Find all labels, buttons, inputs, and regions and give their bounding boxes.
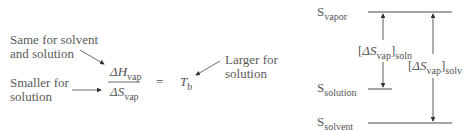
equation-denominator: ΔSvap — [110, 84, 139, 100]
label-s-vapor: Svapor — [317, 4, 347, 20]
equals-sign: = — [156, 74, 163, 90]
label-delta-s-soln: [ΔSvap]soln — [358, 43, 412, 59]
label-s-solution: Ssolution — [317, 80, 356, 96]
annotation-same: Same for solvent and solution — [10, 33, 98, 61]
annotation-smaller: Smaller for solution — [10, 76, 69, 104]
equation-numerator: ΔHvap — [110, 64, 141, 80]
annotation-larger: Larger for solution — [225, 53, 278, 81]
label-s-solvent: Ssolvent — [317, 114, 353, 130]
boiling-point-symbol: Tb — [180, 74, 192, 90]
label-delta-s-solv: [ΔSvap]solv — [408, 58, 462, 74]
arrow-larger — [196, 61, 220, 75]
